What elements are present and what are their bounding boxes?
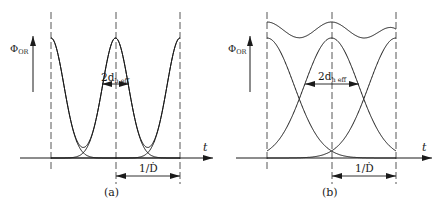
period-label: 1/Ḋ <box>355 161 374 174</box>
panel-b: t ΦOR 2dh eff 1/Ḋ (b) <box>228 12 432 199</box>
y-axis-label: ΦOR <box>228 43 248 56</box>
panel-caption: (a) <box>104 186 119 199</box>
figure-canvas: t ΦOR 2dh eff 1/Ḋ (a) t ΦOR 2dh eff <box>0 0 444 206</box>
panel-caption: (b) <box>322 186 338 199</box>
panel-a: t ΦOR 2dh eff 1/Ḋ (a) <box>10 12 213 199</box>
x-axis-label: t <box>203 141 208 154</box>
gaussian-curves <box>51 38 180 158</box>
gaussian-curves <box>267 22 396 158</box>
width-label: 2dh eff <box>318 70 348 84</box>
x-axis-label: t <box>422 141 427 154</box>
figure: t ΦOR 2dh eff 1/Ḋ (a) t ΦOR 2dh eff <box>0 0 444 206</box>
period-label: 1/Ḋ <box>139 161 158 174</box>
y-axis-label: ΦOR <box>10 43 30 56</box>
